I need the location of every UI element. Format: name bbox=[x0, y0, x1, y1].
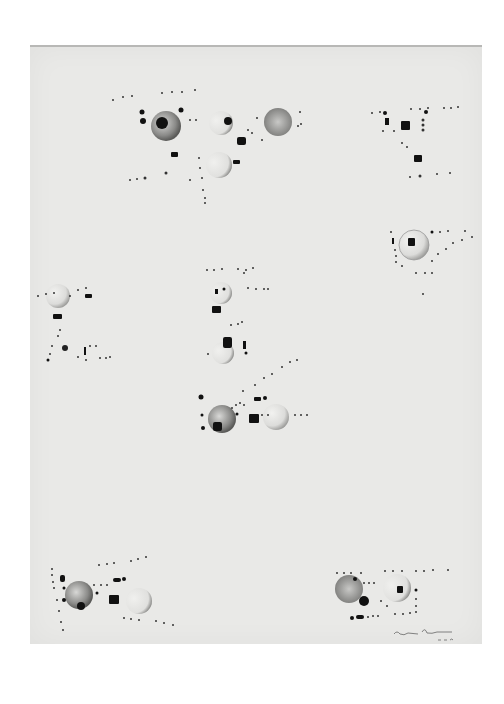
bottom-left-cluster bbox=[51, 556, 174, 631]
center-lower-cluster bbox=[199, 359, 309, 433]
artist-signature bbox=[394, 630, 453, 640]
artwork-drawing bbox=[0, 0, 504, 704]
center-cluster bbox=[206, 267, 269, 364]
top-right-cluster bbox=[371, 106, 459, 178]
right-middle-cluster bbox=[390, 230, 473, 295]
bottom-right-cluster bbox=[335, 569, 449, 620]
top-left-cluster bbox=[112, 89, 302, 204]
left-middle-cluster bbox=[37, 284, 111, 362]
